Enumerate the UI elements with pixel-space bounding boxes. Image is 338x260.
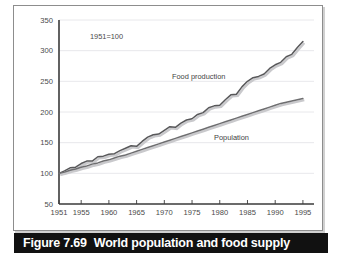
y-tick-label: 350 xyxy=(40,16,53,25)
y-tick-label: 100 xyxy=(40,169,53,178)
x-tick-label: 1970 xyxy=(156,208,173,217)
y-tick-label: 300 xyxy=(40,46,53,55)
x-tick-label: 1975 xyxy=(184,208,201,217)
data-series xyxy=(59,41,304,174)
y-axis-tick-labels: 50100150200250300350 xyxy=(40,16,53,209)
x-tick-label: 1990 xyxy=(267,208,284,217)
figure-number: Figure 7.69 xyxy=(23,236,87,250)
chart-panel: 50100150200250300350 1951195519601965197… xyxy=(13,5,323,231)
figure-container: 50100150200250300350 1951195519601965197… xyxy=(0,0,338,260)
line-chart: 50100150200250300350 1951195519601965197… xyxy=(14,6,324,232)
series-line-food-production xyxy=(59,41,303,173)
x-tick-label: 1955 xyxy=(73,208,90,217)
y-tick-label: 200 xyxy=(40,108,53,117)
x-tick-label: 1965 xyxy=(128,208,145,217)
x-tick-label: 1951 xyxy=(51,208,68,217)
x-tick-label: 1995 xyxy=(294,208,311,217)
figure-caption-text: World population and food supply xyxy=(94,236,290,250)
base-index-note: 1951=100 xyxy=(90,32,123,41)
y-tick-label: 150 xyxy=(40,138,53,147)
population-label: Population xyxy=(214,133,249,142)
x-tick-label: 1980 xyxy=(211,208,228,217)
x-axis-tick-labels: 1951195519601965197019751980198519901995 xyxy=(51,208,312,217)
x-tick-label: 1960 xyxy=(100,208,117,217)
figure-caption-bar: Figure 7.69 World population and food su… xyxy=(14,233,328,253)
y-tick-label: 250 xyxy=(40,77,53,86)
food-production-label: Food production xyxy=(172,72,225,81)
chart-plot-area: 50100150200250300350 1951195519601965197… xyxy=(14,6,324,232)
gridlines xyxy=(59,20,314,173)
x-tick-label: 1985 xyxy=(239,208,256,217)
